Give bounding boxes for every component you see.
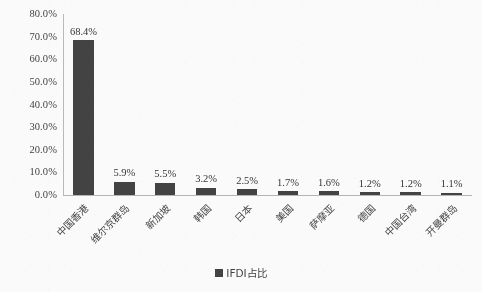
bar-value-label: 1.6%	[318, 178, 340, 189]
bar-value-label: 1.2%	[359, 179, 381, 190]
category-slot: 萨摩亚	[308, 197, 349, 259]
bar-chart: 80.0%70.0%60.0%50.0%40.0%30.0%20.0%10.0%…	[0, 0, 482, 292]
y-axis-tick-70: 70.0%	[5, 32, 57, 43]
bar-value-label: 2.5%	[236, 176, 258, 187]
bar-slot: 68.4%	[63, 14, 104, 195]
plot-area: 68.4%5.9%5.5%3.2%2.5%1.7%1.6%1.2%1.2%1.1…	[63, 14, 472, 195]
bar-slot: 1.2%	[349, 14, 390, 195]
category-slot: 开曼群岛	[431, 197, 472, 259]
bar-slot: 1.6%	[308, 14, 349, 195]
y-axis-tick-10: 10.0%	[5, 167, 57, 178]
y-axis-tick-20: 20.0%	[5, 145, 57, 156]
category-slot: 韩国	[186, 197, 227, 259]
y-axis-tick-50: 50.0%	[5, 77, 57, 88]
y-axis-tick-30: 30.0%	[5, 122, 57, 133]
category-slot: 美国	[268, 197, 309, 259]
y-axis-tick-80: 80.0%	[5, 9, 57, 20]
bar-series-ifdi-share: 68.4%5.9%5.5%3.2%2.5%1.7%1.6%1.2%1.2%1.1…	[63, 14, 472, 195]
bar[interactable]	[73, 40, 93, 195]
category-slot: 维尔京群岛	[104, 197, 145, 259]
bar-value-label: 1.7%	[277, 178, 299, 189]
bar-slot: 1.1%	[431, 14, 472, 195]
bar-value-label: 3.2%	[195, 174, 217, 185]
y-axis-tick-labels: 80.0%70.0%60.0%50.0%40.0%30.0%20.0%10.0%…	[0, 0, 57, 292]
legend-label: IFDI占比	[226, 268, 266, 279]
bar-slot: 2.5%	[227, 14, 268, 195]
x-axis-category-labels: 中国香港维尔京群岛新加坡韩国日本美国萨摩亚德国中国台湾开曼群岛	[63, 197, 472, 259]
legend-swatch-icon	[215, 269, 223, 277]
y-axis-tick-60: 60.0%	[5, 54, 57, 65]
bar-value-label: 5.9%	[113, 168, 135, 179]
bar-value-label: 1.2%	[400, 179, 422, 190]
chart-legend: IFDI占比	[0, 268, 482, 279]
bar-slot: 3.2%	[186, 14, 227, 195]
bar-slot: 5.9%	[104, 14, 145, 195]
y-axis-tick-40: 40.0%	[5, 100, 57, 111]
category-slot: 新加坡	[145, 197, 186, 259]
bar-slot: 1.7%	[268, 14, 309, 195]
bar-slot: 1.2%	[390, 14, 431, 195]
bar-value-label: 68.4%	[70, 27, 97, 38]
bar-slot: 5.5%	[145, 14, 186, 195]
category-slot: 日本	[227, 197, 268, 259]
y-axis-tick-0: 0.0%	[5, 190, 57, 201]
